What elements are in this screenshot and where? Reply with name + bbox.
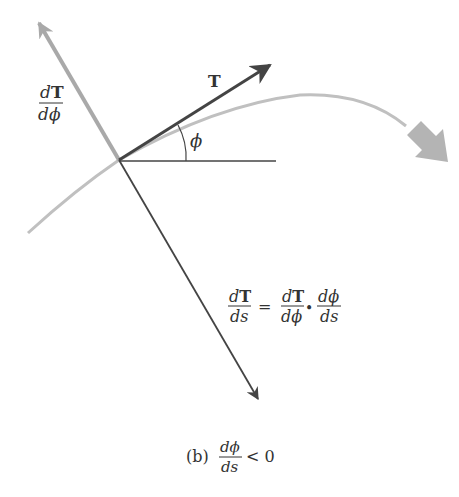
diagram-canvas: T ϕ dT dϕ dT ds = dT dϕ • dϕ ds (b) dϕ d…: [0, 0, 459, 497]
svg-text:dT: dT: [229, 287, 251, 306]
curve-direction-arrow-icon: [407, 121, 448, 162]
eq-rhs2-den: ds: [320, 307, 338, 326]
caption-prefix: (b): [186, 447, 209, 466]
caption-frac-den: ds: [221, 458, 239, 476]
dT-dphi-num-T: T: [51, 82, 64, 102]
caption-frac-num: dϕ: [220, 438, 240, 456]
dT-dphi-den: dϕ: [38, 104, 61, 124]
eq-lhs-den: ds: [230, 307, 248, 326]
vector-T-label: T: [208, 71, 221, 91]
eq-rhs1-num-T: T: [292, 287, 304, 306]
angle-phi-label: ϕ: [190, 130, 202, 151]
caption-relation: < 0: [246, 447, 275, 466]
dT-ds-vector: [119, 160, 258, 399]
eq-rhs1-den: dϕ: [281, 307, 302, 326]
eq-rhs2-num: dϕ: [318, 287, 339, 306]
eq-lhs-num-d: d: [229, 287, 239, 306]
figure-caption: (b) dϕ ds < 0: [186, 438, 275, 476]
eq-lhs-num-T: T: [239, 287, 251, 306]
eq-dot: •: [305, 300, 313, 316]
dT-dphi-label: dT dϕ: [38, 82, 64, 124]
curve-path: [28, 95, 406, 233]
eq-equals: =: [258, 297, 271, 316]
chain-rule-equation: dT ds = dT dϕ • dϕ ds: [228, 287, 341, 326]
eq-rhs1-num-d: d: [282, 287, 292, 306]
dT-dphi-num-d: d: [40, 82, 51, 102]
svg-text:dT: dT: [40, 82, 64, 102]
svg-text:dT: dT: [282, 287, 304, 306]
